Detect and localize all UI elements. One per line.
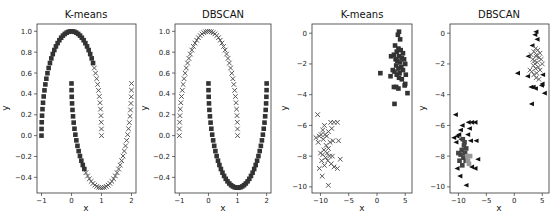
x-marker xyxy=(228,66,233,71)
x-marker xyxy=(316,140,321,145)
x-marker xyxy=(229,71,234,76)
y-tick-label: 0 xyxy=(441,30,445,38)
x-tick-label: 2 xyxy=(264,197,268,205)
square-marker xyxy=(80,163,85,168)
subplot-dbscan-blobs: DBSCAN x y −10−505−10−8−6−4−20 xyxy=(417,9,549,213)
triangle-marker xyxy=(467,126,472,131)
x-tick-label: −10 xyxy=(313,197,328,205)
figure: K-means x y −1012−0.4−0.20.00.20.40.60.8… xyxy=(0,0,560,224)
square-marker xyxy=(398,60,403,65)
x-tick-label: −1 xyxy=(36,197,46,205)
square-marker xyxy=(71,114,76,119)
square-marker xyxy=(39,120,44,125)
x-marker xyxy=(129,95,134,100)
x-marker xyxy=(320,128,325,133)
square-marker xyxy=(208,120,213,125)
x-tick-label: 5 xyxy=(540,197,544,205)
x-marker xyxy=(180,88,185,93)
x-tick-label: −10 xyxy=(451,197,466,205)
x-marker xyxy=(187,56,192,61)
x-marker xyxy=(235,113,240,118)
triangle-marker xyxy=(458,128,463,133)
y-tick-label: −10 xyxy=(292,183,307,191)
x-marker xyxy=(182,76,187,81)
square-marker xyxy=(207,108,212,113)
y-tick-label: −6 xyxy=(435,122,446,130)
x-marker xyxy=(224,52,229,57)
x-marker xyxy=(177,120,182,125)
x-marker xyxy=(184,66,189,71)
triangle-marker xyxy=(453,112,458,117)
x-axis-label: x xyxy=(220,203,226,213)
x-marker xyxy=(321,137,326,142)
square-marker xyxy=(253,163,258,168)
square-marker xyxy=(216,158,221,163)
square-marker xyxy=(263,108,268,113)
y-axis-label: y xyxy=(0,105,10,111)
x-marker xyxy=(121,154,126,159)
y-axis-label: y xyxy=(417,105,427,111)
triangle-marker xyxy=(525,74,530,79)
x-tick-label: 0 xyxy=(69,197,73,205)
square-marker xyxy=(211,138,216,143)
y-tick-label: −2 xyxy=(297,60,307,68)
subplot-title: K-means xyxy=(341,9,384,20)
x-marker xyxy=(330,154,335,159)
triangle-marker xyxy=(534,37,539,42)
x-marker xyxy=(128,114,133,119)
y-tick-label: 0.4 xyxy=(159,90,171,98)
square-marker xyxy=(261,132,266,137)
square-marker xyxy=(45,71,50,76)
square-marker xyxy=(468,154,473,159)
x-marker xyxy=(122,149,127,154)
square-marker xyxy=(48,61,53,66)
x-marker xyxy=(98,100,103,105)
x-marker xyxy=(188,52,193,57)
square-marker xyxy=(464,146,469,151)
x-tick-label: 1 xyxy=(99,197,103,205)
square-marker xyxy=(208,114,213,119)
x-marker xyxy=(99,133,104,138)
x-marker xyxy=(123,144,128,149)
x-marker xyxy=(129,88,134,93)
x-marker xyxy=(97,94,102,99)
square-marker xyxy=(263,114,268,119)
x-marker xyxy=(326,146,331,151)
subplot-kmeans-blobs: K-means x y −10−505−10−8−6−4−20 xyxy=(279,9,412,213)
x-marker xyxy=(179,94,184,99)
square-marker xyxy=(214,154,219,159)
x-axis-label: x xyxy=(359,203,365,213)
square-marker xyxy=(213,149,218,154)
x-marker xyxy=(124,138,129,143)
square-marker xyxy=(78,154,83,159)
square-marker xyxy=(41,100,46,105)
x-marker xyxy=(326,183,331,188)
square-marker xyxy=(400,77,405,82)
x-marker xyxy=(227,61,232,66)
square-marker xyxy=(264,95,269,100)
triangle-marker xyxy=(451,135,456,140)
y-tick-label: 0.2 xyxy=(21,111,32,119)
y-tick-label: −4 xyxy=(297,91,308,99)
triangle-marker xyxy=(532,32,537,37)
square-marker xyxy=(398,37,403,42)
x-tick-label: 1 xyxy=(235,197,239,205)
square-marker xyxy=(264,101,269,106)
x-marker xyxy=(99,127,104,132)
x-marker xyxy=(336,138,341,143)
x-marker xyxy=(183,71,188,76)
y-tick-label: 0.2 xyxy=(159,111,170,119)
triangle-marker xyxy=(529,102,534,107)
x-marker xyxy=(178,107,183,112)
x-marker xyxy=(540,62,545,67)
triangle-marker xyxy=(540,72,545,77)
square-marker xyxy=(396,66,401,71)
x-marker xyxy=(235,127,240,132)
x-marker xyxy=(234,107,239,112)
x-marker xyxy=(317,166,322,171)
x-marker xyxy=(338,157,343,162)
x-marker xyxy=(181,82,186,87)
x-marker xyxy=(323,155,328,160)
x-marker xyxy=(129,101,134,106)
x-tick-label: 0 xyxy=(206,197,210,205)
